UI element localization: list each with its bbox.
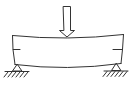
beam-diagram [0,0,137,85]
beam-left-end [13,36,21,65]
beam-bottom-edge [15,64,121,68]
load-arrow-icon [60,7,75,38]
beam [13,35,124,68]
left-pin-support-icon [4,65,29,78]
beam-right-end [113,35,124,64]
